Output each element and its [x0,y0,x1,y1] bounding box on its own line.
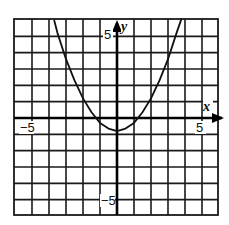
y-tick-label-5: 5 [104,27,111,42]
coordinate-plane: −5 5 5 −5 y x [0,0,229,225]
y-axis-name: y [119,19,128,34]
x-tick-label-neg5: −5 [20,120,35,135]
y-tick-label-neg5: −5 [101,193,116,208]
x-tick-label-5: 5 [196,120,203,135]
x-axis-name: x [202,99,210,114]
